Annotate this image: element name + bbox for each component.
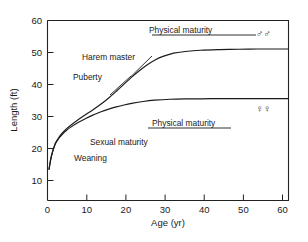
annotation-puberty: Puberty: [73, 72, 103, 82]
plot-frame: [48, 21, 290, 201]
annotation-weaning: Weaning: [74, 153, 107, 163]
growth-curve-figure: 60 50 40 30 20 10 0 10 20 30 40 50 60 A: [0, 0, 308, 242]
y-axis-title: Length (ft): [8, 88, 19, 131]
x-axis-tick-labels: 0 10 20 30 40 50 60: [45, 204, 288, 215]
y-axis-ticks: [48, 21, 54, 181]
x-axis-title: Age (yr): [151, 217, 185, 228]
annotation-physical-maturity-female: Physical maturity: [152, 118, 216, 128]
y-tick-label-50: 50: [31, 47, 42, 58]
y-axis-tick-labels: 60 50 40 30 20 10: [31, 15, 42, 186]
male-symbol-icon: ♂♂: [256, 28, 271, 39]
annotation-sexual-maturity: Sexual maturity: [90, 137, 149, 147]
female-symbol-icon: ♀♀: [256, 103, 271, 114]
chart-annotations: Physical maturity Harem master Puberty P…: [73, 25, 271, 163]
x-tick-label-40: 40: [199, 204, 210, 215]
x-tick-label-60: 60: [277, 204, 288, 215]
y-tick-label-40: 40: [31, 79, 42, 90]
growth-curve-males: [49, 49, 288, 169]
x-axis-ticks: [87, 195, 283, 201]
x-tick-label-50: 50: [238, 204, 249, 215]
annotation-physical-maturity-male: Physical maturity: [149, 25, 213, 35]
y-tick-label-30: 30: [31, 111, 42, 122]
x-tick-label-20: 20: [121, 204, 132, 215]
chart-canvas: 60 50 40 30 20 10 0 10 20 30 40 50 60 A: [0, 0, 308, 242]
y-tick-label-10: 10: [31, 175, 42, 186]
x-tick-label-0: 0: [45, 204, 50, 215]
y-tick-label-60: 60: [31, 15, 42, 26]
x-tick-label-10: 10: [82, 204, 93, 215]
x-tick-label-30: 30: [160, 204, 171, 215]
y-tick-label-20: 20: [31, 143, 42, 154]
annotation-harem-master: Harem master: [82, 52, 135, 62]
leader-puberty: [110, 76, 131, 95]
